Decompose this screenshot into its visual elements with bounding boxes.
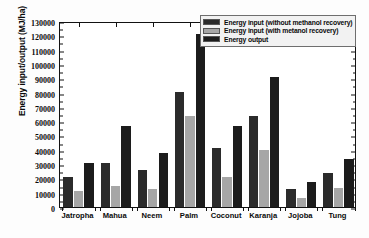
x-tick-mark — [280, 207, 281, 211]
y-tick-label: 90000 — [35, 76, 60, 85]
y-tick-label: 40000 — [35, 147, 60, 156]
y-tick-label: 0 — [51, 205, 60, 214]
bar-group — [286, 23, 316, 207]
y-tick-label: 130000 — [31, 19, 60, 28]
x-axis-label-mahua: Mahua — [103, 211, 127, 220]
x-axis-label-jatropha: Jatropha — [62, 211, 94, 220]
x-axis-label-palm: Palm — [180, 211, 198, 220]
x-tick-mark — [169, 207, 170, 211]
y-tick-label: 30000 — [35, 162, 60, 171]
y-axis-title: Energy input/output (MJ/ha) — [17, 0, 27, 141]
x-axis-label-jojoba: Jojoba — [288, 211, 312, 220]
y-tick-label: 50000 — [35, 133, 60, 142]
x-tick-mark — [243, 207, 244, 211]
bar-group — [101, 23, 131, 207]
bar — [334, 188, 343, 207]
x-axis-label-neem: Neem — [141, 211, 162, 220]
bar — [323, 173, 332, 207]
bar — [222, 177, 231, 207]
y-tick-label: 100000 — [31, 61, 60, 70]
bar — [212, 148, 221, 207]
x-tick-mark — [317, 207, 318, 211]
bar — [74, 191, 83, 207]
x-tick-mark — [132, 207, 133, 211]
bar — [286, 189, 295, 207]
legend-item: Energy output — [203, 35, 352, 44]
bar-group — [175, 23, 205, 207]
bar-group — [249, 23, 279, 207]
bar — [249, 116, 258, 207]
bar-series-container — [60, 23, 355, 207]
legend-label: Energy input (without methanol recovery) — [224, 19, 352, 26]
y-tick-label: 80000 — [35, 90, 60, 99]
legend-item: Energy input (with metanol recovery) — [203, 27, 352, 36]
bar — [138, 170, 147, 207]
legend-label: Energy input (with metanol recovery) — [224, 27, 338, 34]
y-tick-label: 120000 — [31, 33, 60, 42]
bar — [307, 182, 316, 207]
chart-legend: Energy input (without methanol recovery)… — [200, 15, 356, 47]
bar — [175, 92, 184, 207]
bar-group — [212, 23, 242, 207]
bar — [233, 126, 242, 207]
bar — [84, 163, 93, 207]
x-axis-label-karanja: Karanja — [249, 211, 277, 220]
bar — [270, 77, 279, 207]
y-tick-label: 110000 — [31, 47, 60, 56]
x-axis-label-coconut: Coconut — [211, 211, 242, 220]
y-tick-label: 20000 — [35, 176, 60, 185]
y-tick-label: 10000 — [35, 190, 60, 199]
bar-group — [63, 23, 93, 207]
legend-item: Energy input (without methanol recovery) — [203, 18, 352, 27]
legend-swatch — [203, 28, 220, 34]
x-tick-mark — [100, 207, 101, 211]
bar — [148, 189, 157, 207]
x-tick-mark — [137, 207, 138, 211]
x-axis-label-tung: Tung — [328, 211, 346, 220]
x-tick-mark — [285, 207, 286, 211]
legend-swatch — [203, 36, 220, 42]
bar — [259, 150, 268, 207]
bar — [111, 186, 120, 207]
bar — [297, 198, 306, 207]
legend-swatch — [203, 19, 220, 25]
bar — [185, 116, 194, 207]
bar — [196, 34, 205, 207]
chart-figure: Energy input/output (MJ/ha) 010000200003… — [0, 0, 369, 238]
x-tick-mark — [206, 207, 207, 211]
x-tick-mark — [322, 207, 323, 211]
legend-label: Energy output — [224, 36, 268, 43]
y-tick-label: 60000 — [35, 119, 60, 128]
bar-group — [138, 23, 168, 207]
y-tick-label: 70000 — [35, 104, 60, 113]
bar — [121, 126, 130, 207]
bar-group — [323, 23, 353, 207]
x-tick-mark — [355, 207, 356, 211]
x-tick-mark — [95, 207, 96, 211]
bar — [159, 153, 168, 207]
bar — [101, 163, 110, 207]
bar — [63, 177, 72, 207]
plot-area: 0100002000030000400005000060000700008000… — [59, 22, 356, 208]
x-tick-mark — [174, 207, 175, 211]
bar — [344, 159, 353, 207]
